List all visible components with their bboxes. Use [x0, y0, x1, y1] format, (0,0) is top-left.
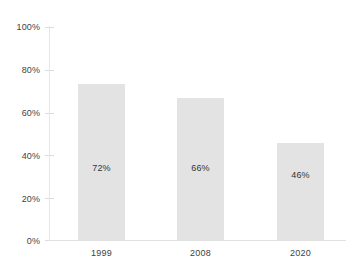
x-axis-label-2008: 2008: [173, 248, 228, 259]
bar-1999: [78, 84, 125, 240]
y-axis-label-60: 60%: [0, 108, 40, 118]
y-axis-label-20: 20%: [0, 194, 40, 204]
bar-2020: [277, 143, 324, 240]
y-axis-label-40: 40%: [0, 151, 40, 161]
x-axis-line: [49, 240, 346, 241]
bar-chart: 100% 80% 60% 40% 20% 0% 72% 66% 46% 1999…: [0, 0, 358, 277]
bar-value-2008: 66%: [177, 163, 224, 173]
x-axis-label-2020: 2020: [273, 248, 328, 259]
bar-value-2020: 46%: [277, 170, 324, 180]
x-axis-label-1999: 1999: [74, 248, 129, 259]
y-axis-line: [49, 26, 50, 241]
y-axis-label-80: 80%: [0, 65, 40, 75]
y-axis-label-0: 0%: [0, 236, 40, 246]
bar-value-1999: 72%: [78, 163, 125, 173]
y-axis-label-100: 100%: [0, 22, 40, 32]
